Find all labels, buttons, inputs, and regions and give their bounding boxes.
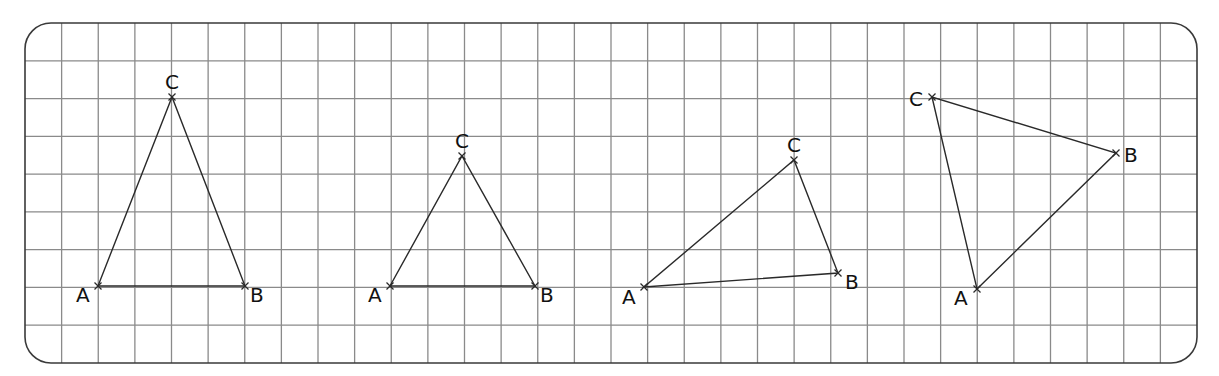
vertex-a-label: A [368,283,382,307]
triangle-4-edges [932,97,1116,289]
grid-paper-figure: A B C A B C A B C A B C [0,0,1219,376]
vertex-a-label: A [76,283,90,307]
grid-lines [25,23,1197,363]
vertex-b-label: B [1124,143,1138,167]
vertex-a-label: A [954,286,968,310]
vertex-b-label: B [540,283,554,307]
triangle-3-edges [644,160,838,287]
vertex-b-label: B [845,270,859,294]
vertex-c-label: C [909,87,923,111]
triangle-3: A B C [622,133,859,309]
vertex-c-label: C [787,133,801,157]
vertex-b-marker [1113,150,1120,157]
triangle-4: A B C [909,87,1138,310]
triangle-2: A B C [368,129,554,307]
triangle-1: A B C [76,70,264,307]
vertex-a-label: A [622,285,636,309]
vertex-b-label: B [250,283,264,307]
vertex-c-label: C [165,70,179,94]
triangle-2-edges [390,156,535,286]
vertex-c-label: C [455,129,469,153]
